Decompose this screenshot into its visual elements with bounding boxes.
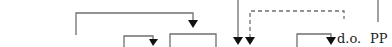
- label-prepositional-phrase: PP: [370, 31, 388, 46]
- dependency-arrow-diagram: d.o. PP: [0, 0, 392, 47]
- arrowhead-down-icon: [233, 37, 243, 45]
- bracket-small-1: [124, 36, 153, 47]
- bracket-small-2: [170, 34, 216, 47]
- label-direct-object: d.o.: [337, 31, 361, 46]
- arrowhead-down-icon: [245, 37, 255, 45]
- arrowhead-down-icon: [326, 37, 336, 45]
- bracket-large: [76, 13, 193, 35]
- bracket-direct-object: [297, 34, 331, 47]
- arrowhead-down-icon: [149, 39, 158, 46]
- arrowhead-down-icon: [188, 20, 198, 28]
